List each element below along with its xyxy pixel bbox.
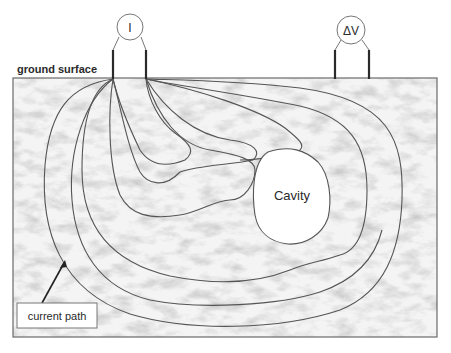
current-meter: I [113,14,146,79]
cavity: Cavity [253,149,329,244]
callout-label: current path [28,310,87,322]
ground-surface-label: ground surface [17,63,97,75]
current-meter-label: I [128,21,131,35]
resistivity-survey-diagram: Cavity I ΔV ground surface current path [0,0,451,353]
ground-body [13,78,437,337]
cavity-label: Cavity [274,188,311,203]
voltage-meter-label: ΔV [343,24,359,38]
voltage-meter: ΔV [335,16,369,79]
